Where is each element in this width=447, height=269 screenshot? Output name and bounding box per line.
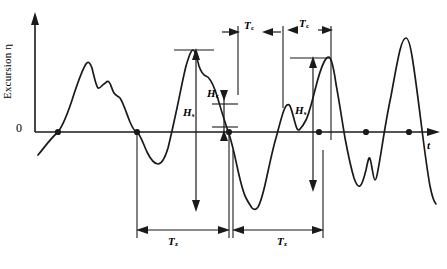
- annotation-hs-right-symbol: H: [295, 104, 304, 116]
- annotation-tc-right: Tc: [299, 18, 309, 30]
- annotation-tz-left-subscript: z: [175, 240, 178, 247]
- wave-trace: [38, 38, 436, 209]
- annotation-hs-right-subscript: s: [304, 109, 307, 116]
- zero-crossing-dot: [363, 129, 369, 135]
- zero-crossing-dot: [316, 129, 322, 135]
- annotation-tz-right-symbol: T: [277, 235, 284, 247]
- wave-record-figure: Excursion η 0 t Hs Hc Hs Tc Tc Tz Tz: [0, 0, 447, 269]
- annotation-tc-right-subscript: c: [306, 22, 309, 29]
- annotation-hc-symbol: H: [207, 87, 216, 99]
- tz-left-arrowhead-left: [136, 226, 148, 234]
- tz-left-arrowhead-right: [218, 226, 230, 234]
- y-axis-arrowhead: [31, 12, 39, 25]
- wave-trace-group: [38, 38, 436, 209]
- annotation-hc-subscript: c: [216, 92, 219, 99]
- annotation-tc-right-symbol: T: [299, 17, 306, 29]
- annotation-hc: Hc: [207, 88, 219, 100]
- tc-left-arrowhead-left: [262, 28, 273, 36]
- annotation-hs-right: Hs: [295, 105, 307, 117]
- annotation-tz-left: Tz: [168, 236, 178, 248]
- x-axis-arrowhead: [427, 128, 440, 136]
- annotation-hs-left-symbol: H: [183, 106, 192, 118]
- tz-right-arrowhead-right: [312, 226, 324, 234]
- hs-left-arrowhead-down: [192, 200, 200, 212]
- zero-crossing-dot: [55, 129, 61, 135]
- tz-right-arrowhead-left: [232, 226, 244, 234]
- annotation-tz-left-symbol: T: [168, 235, 175, 247]
- zero-crossing-dot: [406, 129, 412, 135]
- tc-right-arrowhead-left: [287, 26, 298, 34]
- annotation-hs-left-subscript: s: [192, 111, 195, 118]
- y-axis-label: Excursion η: [2, 26, 20, 116]
- annotation-tc-left: Tc: [244, 20, 254, 32]
- period-dimension-arrows: [136, 26, 333, 234]
- annotation-tc-left-symbol: T: [244, 19, 251, 31]
- y-axis-origin-label: 0: [16, 122, 22, 134]
- hs-right-arrowhead-down: [309, 180, 317, 192]
- x-axis-label: t: [427, 140, 430, 151]
- annotation-hs-left: Hs: [183, 107, 195, 119]
- hc-arrowhead-down: [220, 90, 228, 101]
- wave-record-plot: [0, 0, 447, 269]
- annotation-tc-left-subscript: c: [251, 24, 254, 31]
- annotation-tz-right: Tz: [277, 236, 287, 248]
- annotation-tz-right-subscript: z: [284, 240, 287, 247]
